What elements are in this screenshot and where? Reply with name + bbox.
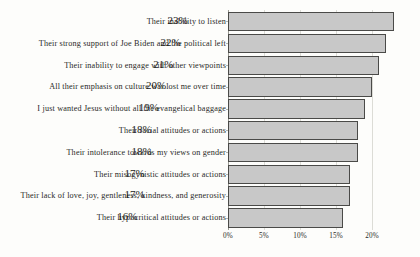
bar-row: Their strong support of Joe Biden and th… [0, 33, 420, 55]
bar [228, 143, 358, 162]
bar-value-label: 18% [132, 120, 152, 139]
bar-value-label: 17% [124, 185, 144, 204]
bar-rows: Their inability to listen23%Their strong… [0, 11, 420, 229]
category-label: Their lack of love, joy, gentleness, kin… [21, 185, 226, 207]
x-tick-label: 15% [329, 232, 343, 240]
bar [228, 208, 343, 227]
x-tick-label: 0% [223, 232, 233, 240]
x-tick-label: 5% [259, 232, 269, 240]
bar [228, 56, 379, 75]
bar-chart: Their inability to listen23%Their strong… [0, 0, 420, 257]
bar-value-label: 22% [160, 33, 180, 52]
bar-row: Their lack of love, joy, gentleness, kin… [0, 185, 420, 207]
bar-row: Their misogynistic attitudes or actions1… [0, 164, 420, 186]
bar-value-label: 20% [146, 76, 166, 95]
category-label: Their inability to engage with other vie… [64, 55, 226, 77]
bar [228, 186, 350, 205]
bar-track [228, 186, 350, 205]
bar [228, 99, 365, 118]
bar-track [228, 56, 379, 75]
bar-track [228, 77, 372, 96]
bar-value-label: 16% [117, 207, 137, 226]
bar-value-label: 18% [132, 142, 152, 161]
bar [228, 121, 358, 140]
bar-row: Their racial attitudes or actions18% [0, 120, 420, 142]
bar-track [228, 121, 358, 140]
bar [228, 165, 350, 184]
bar-row: I just wanted Jesus without all the evan… [0, 98, 420, 120]
bar-row: Their intolerance towards my views on ge… [0, 142, 420, 164]
bar-value-label: 19% [139, 98, 159, 117]
bar-row: Their inability to engage with other vie… [0, 55, 420, 77]
bar [228, 34, 386, 53]
x-tick-label: 20% [365, 232, 379, 240]
category-label: All their emphasis on culture war lost m… [49, 76, 226, 98]
category-label: Their strong support of Joe Biden and th… [39, 33, 226, 55]
bar-track [228, 12, 394, 31]
bar [228, 12, 394, 31]
bar-value-label: 17% [124, 164, 144, 183]
x-axis: 0%5%10%15%20% [0, 232, 420, 246]
bar-row: All their emphasis on culture war lost m… [0, 76, 420, 98]
bar-track [228, 99, 365, 118]
x-tick-label: 10% [293, 232, 307, 240]
plot-area: Their inability to listen23%Their strong… [0, 0, 420, 257]
bar-value-label: 21% [153, 55, 173, 74]
bar [228, 77, 372, 96]
bar-track [228, 165, 350, 184]
bar-value-label: 23% [168, 11, 188, 30]
bar-track [228, 34, 386, 53]
bar-row: Their hypocritical attitudes or actions1… [0, 207, 420, 229]
category-label: Their misogynistic attitudes or actions [94, 164, 226, 186]
category-label: I just wanted Jesus without all the evan… [37, 98, 226, 120]
bar-track [228, 208, 343, 227]
bar-row: Their inability to listen23% [0, 11, 420, 33]
bar-track [228, 143, 358, 162]
